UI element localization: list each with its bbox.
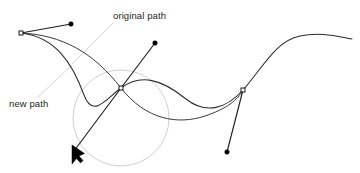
left-handle-dot[interactable] bbox=[69, 22, 74, 27]
left-anchor-handle-line[interactable] bbox=[21, 24, 71, 33]
upper-handle-dot[interactable] bbox=[153, 41, 158, 46]
guide-circle bbox=[73, 70, 169, 166]
bezier-path-diagram: original path new path bbox=[0, 0, 360, 173]
illustration-canvas: original path new path bbox=[0, 0, 360, 173]
right-anchor-point[interactable] bbox=[241, 88, 245, 92]
right-anchor-handle-line[interactable] bbox=[227, 90, 243, 152]
drag-cursor-arrow-icon bbox=[72, 145, 85, 164]
left-anchor-point[interactable] bbox=[19, 31, 23, 35]
original-path-leader-line bbox=[72, 23, 113, 64]
center-anchor-point[interactable] bbox=[119, 86, 123, 90]
new-path-curve bbox=[21, 33, 352, 108]
new-path-leader-line bbox=[38, 65, 72, 97]
new-path-label: new path bbox=[9, 98, 48, 109]
original-path-curve bbox=[21, 33, 243, 120]
lower-right-handle-dot[interactable] bbox=[225, 150, 230, 155]
center-lower-handle-line[interactable] bbox=[74, 88, 121, 151]
center-upper-handle-line[interactable] bbox=[121, 43, 155, 88]
original-path-label: original path bbox=[113, 10, 166, 21]
